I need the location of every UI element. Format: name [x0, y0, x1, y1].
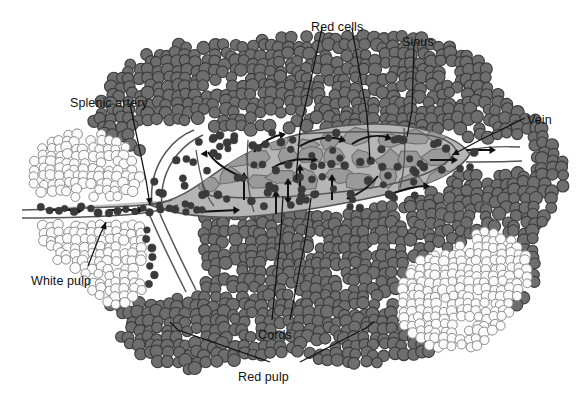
label-vein: Vein	[527, 113, 552, 127]
label-red-cells: Red cells	[311, 20, 363, 34]
spleen-diagram-figure: Splenic artery Red cells Sinus Vein Whit…	[0, 0, 582, 401]
label-red-pulp: Red pulp	[238, 370, 289, 384]
label-splenic-artery: Splenic artery	[70, 96, 148, 110]
label-white-pulp: White pulp	[31, 274, 91, 288]
label-sinus: Sinus	[402, 35, 434, 49]
label-cords: Cords	[258, 328, 292, 342]
